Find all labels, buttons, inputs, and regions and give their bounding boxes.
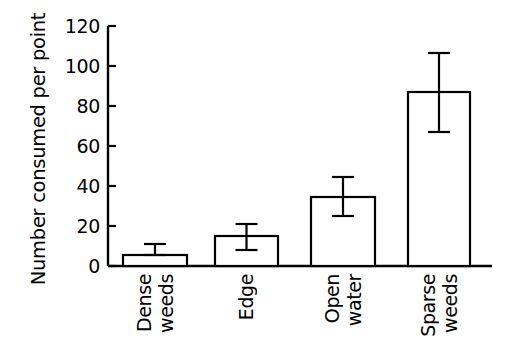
x-category-label-sparse-weeds: Sparseweeds [408, 274, 470, 356]
x-category-word: water [344, 274, 365, 326]
x-category-label-edge: Edge [215, 274, 278, 356]
bar-dense-weeds [123, 255, 187, 266]
bar-group [123, 92, 470, 266]
x-category-word: Open [322, 274, 343, 323]
x-category-word: weeds [440, 274, 461, 333]
x-category-label-open-water: Openwater [311, 274, 375, 356]
x-category-word: Sparse [418, 274, 439, 337]
x-category-label-dense-weeds: Denseweeds [123, 274, 187, 356]
x-category-word: Dense [134, 274, 155, 332]
x-category-word: Edge [236, 274, 257, 320]
bar-chart-figure: Number consumed per point 120 100 80 60 … [0, 0, 510, 361]
error-bar-group [144, 53, 450, 255]
x-category-word: weeds [156, 274, 177, 333]
